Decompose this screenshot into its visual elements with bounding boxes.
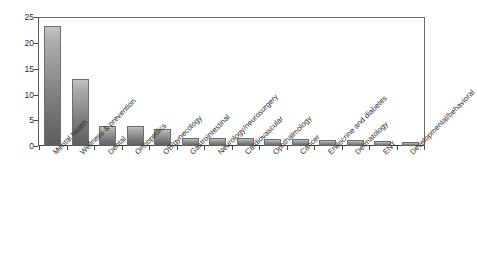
y-tick-label-25: 25 bbox=[2, 13, 34, 22]
y-tick-label-20: 20 bbox=[2, 39, 34, 48]
y-tick-mark-0 bbox=[34, 146, 38, 147]
y-tick-label-5: 5 bbox=[2, 116, 34, 125]
y-tick-label-10: 10 bbox=[2, 91, 34, 100]
x-axis-labels: Mental healthWellness & preventionDental… bbox=[0, 150, 446, 258]
y-tick-label-15: 15 bbox=[2, 65, 34, 74]
bar bbox=[44, 26, 61, 146]
bars-container bbox=[39, 18, 424, 146]
